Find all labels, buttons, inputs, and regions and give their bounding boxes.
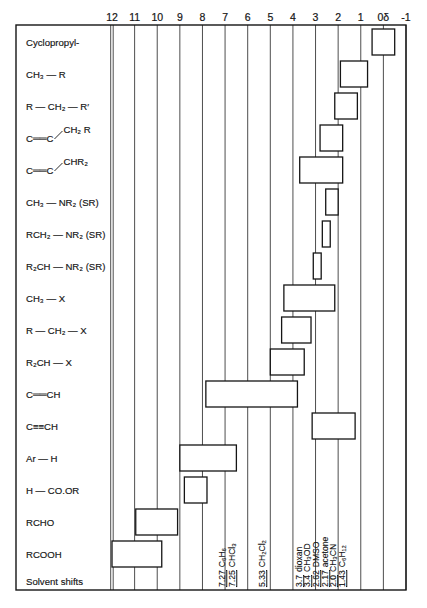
solvent-name: C₆H₁₂: [337, 545, 347, 567]
x-tick-label: 0δ: [378, 11, 390, 23]
shift-range-box: [340, 61, 367, 87]
x-tick-label: 11: [129, 11, 140, 23]
solvent-shift-text: 5.33CH₂Cl₂: [257, 540, 267, 587]
solvent-name: CH₂Cl₂: [257, 540, 267, 567]
row-label: CH₃ — NR₂ (SR): [26, 197, 99, 208]
shift-range-box: [335, 93, 358, 119]
x-tick-label: 6: [245, 11, 251, 23]
row-label: Cyclopropyl-: [26, 37, 79, 48]
x-tick-label: 7: [222, 11, 228, 23]
x-tick-label: 10: [151, 11, 163, 23]
solvent-shift-text: 1.43C₆H₁₂: [337, 545, 347, 587]
row-label: R — CH₂ — R′: [26, 101, 89, 112]
x-tick-label: 8: [200, 11, 206, 23]
x-tick-label: 4: [290, 11, 296, 23]
row-label: CH₃ — R: [26, 69, 66, 80]
solvent-shift-value: 5.33: [257, 570, 267, 587]
nmr-shift-chart: 1211109876543210δ-1 Cyclopropyl-CH₃ — RR…: [0, 0, 427, 608]
shift-range-box: [136, 509, 178, 535]
shift-range-box: [184, 477, 207, 503]
solvent-shift-annotation: 7.25CHCl₃: [227, 543, 237, 587]
solvent-shift-value: 7.25: [227, 570, 237, 587]
solvent-shift-value: 1.43: [337, 570, 347, 587]
solvent-shift-text: 7.25CHCl₃: [227, 543, 237, 587]
row-label: RCHO: [26, 517, 54, 528]
solvent-name: C₆H₆: [217, 548, 227, 567]
solvent-shift-value: 7.27: [217, 570, 227, 587]
shift-range-box: [313, 253, 321, 279]
shift-range-box: [112, 541, 162, 567]
row-label: RCOOH: [26, 549, 62, 560]
row-label: C══C: [26, 165, 54, 176]
x-tick-label: 3: [313, 11, 319, 23]
row-label: R₂CH — NR₂ (SR): [26, 261, 105, 272]
row-label: H — CO.OR: [26, 485, 79, 496]
shift-range-box: [320, 125, 343, 151]
background: [0, 0, 427, 608]
row-label: CH₃ — X: [26, 293, 66, 304]
row-label-branch: CH₂ R: [63, 124, 90, 135]
row-label: C≡≡CH: [26, 421, 58, 432]
shift-range-box: [180, 445, 237, 471]
x-tick-label: 12: [106, 11, 118, 23]
solvent-shift-annotation: 7.27C₆H₆: [217, 548, 227, 587]
shift-range-box: [206, 381, 298, 407]
x-tick-label: 1: [358, 11, 364, 23]
solvent-shifts-label: Solvent shifts: [26, 576, 83, 587]
shift-range-box: [312, 413, 355, 439]
shift-range-box: [284, 285, 335, 311]
solvent-shift-annotation: 5.33CH₂Cl₂: [257, 540, 267, 587]
row-label: R — CH₂ — X: [26, 325, 87, 336]
row-label: C══CH: [26, 389, 60, 400]
shift-range-box: [326, 189, 338, 215]
shift-range-box: [372, 29, 395, 55]
row-label-branch: CHR₂: [63, 156, 88, 167]
solvent-shift-text: 7.27C₆H₆: [217, 548, 227, 587]
row-label: C══C: [26, 133, 54, 144]
x-tick-label: 2: [335, 11, 341, 23]
solvent-shift-annotation: 1.43C₆H₁₂: [337, 545, 347, 587]
x-tick-label: -1: [401, 11, 410, 23]
x-tick-label: 9: [177, 11, 183, 23]
row-label: RCH₂ — NR₂ (SR): [26, 229, 105, 240]
shift-range-box: [270, 349, 304, 375]
shift-range-box: [300, 157, 343, 183]
shift-range-box: [282, 317, 311, 343]
row-label: Ar — H: [26, 453, 58, 464]
solvent-name: CHCl₃: [227, 543, 237, 568]
shift-range-box: [322, 221, 330, 247]
row-label: R₂CH — X: [26, 357, 72, 368]
x-tick-label: 5: [267, 11, 273, 23]
